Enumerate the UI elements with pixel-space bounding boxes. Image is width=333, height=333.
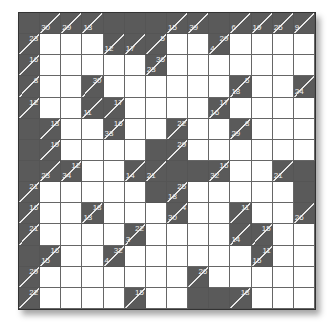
entry-cell[interactable] — [252, 34, 273, 55]
entry-cell[interactable] — [252, 267, 273, 288]
entry-cell[interactable] — [273, 119, 294, 140]
entry-cell[interactable] — [209, 246, 230, 267]
entry-cell[interactable] — [294, 246, 315, 267]
entry-cell[interactable] — [252, 76, 273, 97]
entry-cell[interactable] — [273, 76, 294, 97]
entry-cell[interactable] — [273, 140, 294, 161]
entry-cell[interactable] — [82, 224, 103, 245]
entry-cell[interactable] — [82, 140, 103, 161]
entry-cell[interactable] — [146, 288, 167, 309]
entry-cell[interactable] — [167, 288, 188, 309]
entry-cell[interactable] — [273, 55, 294, 76]
entry-cell[interactable] — [273, 98, 294, 119]
entry-cell[interactable] — [273, 203, 294, 224]
entry-cell[interactable] — [209, 55, 230, 76]
entry-cell[interactable] — [61, 182, 82, 203]
entry-cell[interactable] — [230, 182, 251, 203]
entry-cell[interactable] — [273, 34, 294, 55]
entry-cell[interactable] — [294, 140, 315, 161]
entry-cell[interactable] — [230, 161, 251, 182]
entry-cell[interactable] — [40, 224, 61, 245]
entry-cell[interactable] — [273, 288, 294, 309]
entry-cell[interactable] — [61, 140, 82, 161]
entry-cell[interactable] — [40, 267, 61, 288]
entry-cell[interactable] — [125, 203, 146, 224]
entry-cell[interactable] — [104, 224, 125, 245]
entry-cell[interactable] — [82, 161, 103, 182]
entry-cell[interactable] — [104, 203, 125, 224]
entry-cell[interactable] — [252, 182, 273, 203]
entry-cell[interactable] — [61, 98, 82, 119]
entry-cell[interactable] — [294, 267, 315, 288]
entry-cell[interactable] — [40, 55, 61, 76]
entry-cell[interactable] — [294, 288, 315, 309]
entry-cell[interactable] — [61, 224, 82, 245]
entry-cell[interactable] — [61, 267, 82, 288]
entry-cell[interactable] — [125, 55, 146, 76]
entry-cell[interactable] — [104, 182, 125, 203]
entry-cell[interactable] — [61, 119, 82, 140]
entry-cell[interactable] — [273, 267, 294, 288]
entry-cell[interactable] — [146, 246, 167, 267]
entry-cell[interactable] — [294, 34, 315, 55]
entry-cell[interactable] — [294, 98, 315, 119]
entry-cell[interactable] — [125, 98, 146, 119]
entry-cell[interactable] — [146, 76, 167, 97]
entry-cell[interactable] — [252, 288, 273, 309]
entry-cell[interactable] — [209, 267, 230, 288]
entry-cell[interactable] — [188, 76, 209, 97]
entry-cell[interactable] — [104, 267, 125, 288]
entry-cell[interactable] — [125, 119, 146, 140]
entry-cell[interactable] — [209, 76, 230, 97]
entry-cell[interactable] — [188, 34, 209, 55]
entry-cell[interactable] — [209, 182, 230, 203]
entry-cell[interactable] — [230, 98, 251, 119]
entry-cell[interactable] — [167, 98, 188, 119]
entry-cell[interactable] — [294, 224, 315, 245]
entry-cell[interactable] — [40, 203, 61, 224]
entry-cell[interactable] — [104, 288, 125, 309]
entry-cell[interactable] — [167, 55, 188, 76]
entry-cell[interactable] — [82, 288, 103, 309]
entry-cell[interactable] — [188, 246, 209, 267]
entry-cell[interactable] — [188, 98, 209, 119]
entry-cell[interactable] — [188, 140, 209, 161]
entry-cell[interactable] — [61, 203, 82, 224]
entry-cell[interactable] — [167, 267, 188, 288]
entry-cell[interactable] — [40, 288, 61, 309]
entry-cell[interactable] — [252, 119, 273, 140]
entry-cell[interactable] — [209, 224, 230, 245]
entry-cell[interactable] — [40, 182, 61, 203]
entry-cell[interactable] — [104, 140, 125, 161]
entry-cell[interactable] — [104, 76, 125, 97]
entry-cell[interactable] — [82, 246, 103, 267]
entry-cell[interactable] — [61, 288, 82, 309]
entry-cell[interactable] — [61, 34, 82, 55]
entry-cell[interactable] — [188, 203, 209, 224]
entry-cell[interactable] — [294, 119, 315, 140]
entry-cell[interactable] — [146, 119, 167, 140]
entry-cell[interactable] — [125, 246, 146, 267]
entry-cell[interactable] — [273, 182, 294, 203]
entry-cell[interactable] — [230, 267, 251, 288]
entry-cell[interactable] — [82, 34, 103, 55]
entry-cell[interactable] — [230, 55, 251, 76]
entry-cell[interactable] — [82, 119, 103, 140]
entry-cell[interactable] — [104, 161, 125, 182]
entry-cell[interactable] — [252, 55, 273, 76]
entry-cell[interactable] — [188, 182, 209, 203]
entry-cell[interactable] — [125, 76, 146, 97]
entry-cell[interactable] — [125, 182, 146, 203]
entry-cell[interactable] — [209, 203, 230, 224]
entry-cell[interactable] — [252, 140, 273, 161]
entry-cell[interactable] — [61, 246, 82, 267]
entry-cell[interactable] — [125, 140, 146, 161]
entry-cell[interactable] — [252, 98, 273, 119]
entry-cell[interactable] — [273, 246, 294, 267]
entry-cell[interactable] — [230, 246, 251, 267]
entry-cell[interactable] — [167, 224, 188, 245]
entry-cell[interactable] — [104, 55, 125, 76]
entry-cell[interactable] — [82, 267, 103, 288]
entry-cell[interactable] — [252, 161, 273, 182]
entry-cell[interactable] — [61, 55, 82, 76]
